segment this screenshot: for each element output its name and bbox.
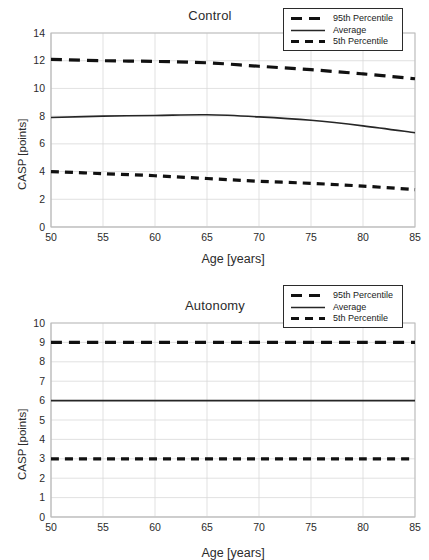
svg-text:65: 65 <box>201 231 213 243</box>
x-axis-label-control: Age [years] <box>143 252 323 266</box>
svg-text:85: 85 <box>409 521 421 533</box>
legend-item-average-autonomy: Average <box>289 302 396 314</box>
svg-text:12: 12 <box>33 54 45 66</box>
svg-text:10: 10 <box>33 317 45 329</box>
svg-text:14: 14 <box>33 27 45 39</box>
legend-swatch-dashed-short-icon <box>289 313 327 324</box>
legend-item-5th-percentile-autonomy: 5th Percentile <box>289 313 396 325</box>
legend-swatch-dashed-long-icon <box>289 290 327 301</box>
legend-swatch-dashed-long-icon <box>289 13 327 24</box>
svg-text:75: 75 <box>305 521 317 533</box>
chart-panel-autonomy: Autonomy CASP [points] 01234567891050556… <box>0 280 429 560</box>
svg-text:6: 6 <box>39 137 45 149</box>
legend-swatch-solid-icon <box>289 302 327 313</box>
svg-text:4: 4 <box>39 433 45 445</box>
legend-label-5th-percentile: 5th Percentile <box>333 36 388 47</box>
legend-label-average: Average <box>333 302 366 313</box>
svg-text:80: 80 <box>357 231 369 243</box>
svg-text:3: 3 <box>39 452 45 464</box>
legend-label-95th-percentile: 95th Percentile <box>333 13 393 24</box>
legend-label-95th-percentile: 95th Percentile <box>333 290 393 301</box>
svg-text:4: 4 <box>39 165 45 177</box>
legend-item-95th-percentile-control: 95th Percentile <box>289 13 396 25</box>
svg-text:8: 8 <box>39 355 45 367</box>
svg-text:9: 9 <box>39 336 45 348</box>
svg-text:8: 8 <box>39 110 45 122</box>
svg-text:2: 2 <box>39 472 45 484</box>
svg-text:50: 50 <box>45 521 57 533</box>
svg-text:50: 50 <box>45 231 57 243</box>
figure-two-panel-casp-chart: Control CASP [points] 024681012145055606… <box>0 0 429 560</box>
legend-item-average-control: Average <box>289 25 396 37</box>
svg-text:65: 65 <box>201 521 213 533</box>
svg-text:75: 75 <box>305 231 317 243</box>
svg-text:6: 6 <box>39 394 45 406</box>
svg-text:70: 70 <box>253 521 265 533</box>
legend-label-5th-percentile: 5th Percentile <box>333 313 388 324</box>
svg-text:85: 85 <box>409 231 421 243</box>
chart-panel-control: Control CASP [points] 024681012145055606… <box>0 0 429 280</box>
legend-swatch-solid-icon <box>289 25 327 36</box>
legend-item-5th-percentile-control: 5th Percentile <box>289 36 396 48</box>
svg-text:2: 2 <box>39 193 45 205</box>
svg-text:7: 7 <box>39 375 45 387</box>
legend-item-95th-percentile-autonomy: 95th Percentile <box>289 290 396 302</box>
svg-text:5: 5 <box>39 414 45 426</box>
svg-text:10: 10 <box>33 82 45 94</box>
legend-autonomy: 95th Percentile Average 5th Percentile <box>283 285 403 328</box>
x-axis-label-autonomy: Age [years] <box>143 546 323 560</box>
svg-text:60: 60 <box>149 521 161 533</box>
legend-control: 95th Percentile Average 5th Percentile <box>283 8 403 51</box>
legend-swatch-dashed-short-icon <box>289 36 327 47</box>
svg-text:70: 70 <box>253 231 265 243</box>
svg-text:1: 1 <box>39 491 45 503</box>
svg-text:80: 80 <box>357 521 369 533</box>
legend-label-average: Average <box>333 25 366 36</box>
svg-text:55: 55 <box>97 231 109 243</box>
svg-text:60: 60 <box>149 231 161 243</box>
svg-text:55: 55 <box>97 521 109 533</box>
